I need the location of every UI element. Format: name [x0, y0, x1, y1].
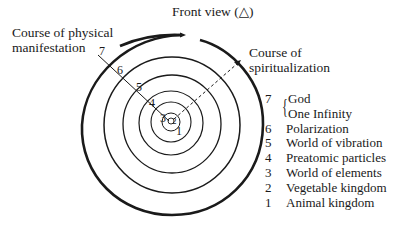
- legend-label: Preatomic particles: [286, 151, 386, 166]
- spiral-number-6: 6: [117, 63, 123, 78]
- spiral-number-1: 1: [176, 124, 182, 139]
- legend-item-6: 6Polarization: [265, 122, 387, 137]
- legend-number: 6: [265, 122, 277, 137]
- legend-item-3: 3World of elements: [265, 166, 387, 181]
- physical-course-line: [98, 55, 169, 121]
- legend-label: God: [288, 92, 352, 107]
- legend: 7 { God One Infinity 6Polarization 5Worl…: [265, 92, 387, 210]
- legend-item-7: 7 { God One Infinity: [265, 92, 387, 122]
- legend-number: 4: [265, 151, 277, 166]
- spiral-number-5: 5: [136, 80, 142, 95]
- legend-number: 7: [265, 92, 277, 122]
- legend-item-4: 4Preatomic particles: [265, 151, 387, 166]
- legend-item-1: 1Animal kingdom: [265, 196, 387, 211]
- spiral-number-3: 3: [160, 111, 166, 126]
- spiritualization-course-line: [174, 63, 238, 119]
- legend-number: 5: [265, 136, 277, 151]
- legend-label: Vegetable kingdom: [286, 181, 387, 196]
- spiral-number-7: 7: [99, 44, 105, 59]
- physical-course-arrowhead-icon: [180, 33, 186, 38]
- legend-number: 1: [265, 196, 277, 211]
- spiral-number-4: 4: [149, 96, 155, 111]
- legend-number: 2: [265, 181, 277, 196]
- legend-label: One Infinity: [288, 107, 352, 122]
- legend-label: Polarization: [286, 122, 349, 137]
- legend-item-2: 2Vegetable kingdom: [265, 181, 387, 196]
- legend-number: 3: [265, 166, 277, 181]
- legend-label: World of vibration: [286, 136, 382, 151]
- curly-brace-icon: {: [282, 92, 285, 122]
- legend-label: Animal kingdom: [286, 196, 374, 211]
- spiral-ring-3: [151, 102, 191, 142]
- legend-label: World of elements: [286, 166, 382, 181]
- legend-item-5: 5World of vibration: [265, 136, 387, 151]
